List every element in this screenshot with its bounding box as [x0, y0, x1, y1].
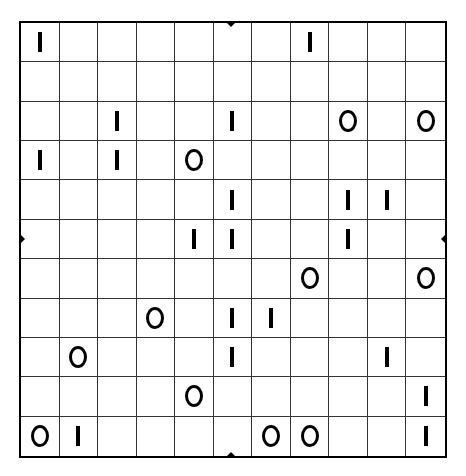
- grid-cell-r3-c3[interactable]: [137, 141, 176, 180]
- grid-cell-r6-c0[interactable]: [21, 259, 60, 298]
- grid-cell-r4-c4[interactable]: [175, 180, 214, 219]
- grid-cell-r2-c4[interactable]: [175, 102, 214, 141]
- grid-cell-r7-c2[interactable]: [98, 299, 137, 338]
- grid-cell-r3-c8[interactable]: [329, 141, 368, 180]
- grid-cell-r4-c5[interactable]: [214, 180, 253, 219]
- grid-cell-r7-c7[interactable]: [291, 299, 330, 338]
- grid-cell-r8-c6[interactable]: [252, 338, 291, 377]
- grid-cell-r1-c8[interactable]: [329, 62, 368, 101]
- grid-cell-r10-c4[interactable]: [175, 417, 214, 456]
- grid-cell-r9-c5[interactable]: [214, 377, 253, 416]
- grid-cell-r8-c0[interactable]: [21, 338, 60, 377]
- grid-cell-r5-c1[interactable]: [60, 220, 99, 259]
- grid-cell-r7-c0[interactable]: [21, 299, 60, 338]
- grid-cell-r0-c8[interactable]: [329, 23, 368, 62]
- grid-cell-r0-c10[interactable]: [406, 23, 445, 62]
- grid-cell-r8-c9[interactable]: [368, 338, 407, 377]
- grid-cell-r3-c4[interactable]: [175, 141, 214, 180]
- grid-cell-r9-c2[interactable]: [98, 377, 137, 416]
- grid-cell-r4-c0[interactable]: [21, 180, 60, 219]
- grid-cell-r4-c1[interactable]: [60, 180, 99, 219]
- grid-cell-r1-c9[interactable]: [368, 62, 407, 101]
- grid-cell-r5-c7[interactable]: [291, 220, 330, 259]
- grid-cell-r2-c1[interactable]: [60, 102, 99, 141]
- grid-cell-r6-c10[interactable]: [406, 259, 445, 298]
- grid-cell-r7-c8[interactable]: [329, 299, 368, 338]
- grid-cell-r5-c3[interactable]: [137, 220, 176, 259]
- grid-cell-r10-c9[interactable]: [368, 417, 407, 456]
- grid-cell-r2-c0[interactable]: [21, 102, 60, 141]
- grid-cell-r0-c1[interactable]: [60, 23, 99, 62]
- grid-cell-r8-c8[interactable]: [329, 338, 368, 377]
- grid-cell-r8-c7[interactable]: [291, 338, 330, 377]
- grid-cell-r8-c4[interactable]: [175, 338, 214, 377]
- grid-cell-r5-c0[interactable]: [21, 220, 60, 259]
- grid-cell-r2-c2[interactable]: [98, 102, 137, 141]
- grid-cell-r7-c1[interactable]: [60, 299, 99, 338]
- grid-cell-r1-c6[interactable]: [252, 62, 291, 101]
- grid-cell-r4-c6[interactable]: [252, 180, 291, 219]
- grid-cell-r7-c5[interactable]: [214, 299, 253, 338]
- grid-cell-r3-c1[interactable]: [60, 141, 99, 180]
- grid-cell-r10-c2[interactable]: [98, 417, 137, 456]
- grid-cell-r1-c2[interactable]: [98, 62, 137, 101]
- grid-cell-r5-c5[interactable]: [214, 220, 253, 259]
- grid-cell-r7-c10[interactable]: [406, 299, 445, 338]
- grid-cell-r9-c3[interactable]: [137, 377, 176, 416]
- grid-cell-r1-c0[interactable]: [21, 62, 60, 101]
- grid-cell-r6-c8[interactable]: [329, 259, 368, 298]
- grid-cell-r9-c6[interactable]: [252, 377, 291, 416]
- grid-cell-r3-c6[interactable]: [252, 141, 291, 180]
- grid-cell-r9-c9[interactable]: [368, 377, 407, 416]
- grid-cell-r9-c10[interactable]: [406, 377, 445, 416]
- grid-cell-r2-c6[interactable]: [252, 102, 291, 141]
- grid-cell-r8-c10[interactable]: [406, 338, 445, 377]
- grid-cell-r1-c7[interactable]: [291, 62, 330, 101]
- grid-cell-r0-c5[interactable]: [214, 23, 253, 62]
- grid-cell-r7-c3[interactable]: [137, 299, 176, 338]
- grid-cell-r3-c5[interactable]: [214, 141, 253, 180]
- grid-cell-r4-c10[interactable]: [406, 180, 445, 219]
- grid-cell-r5-c2[interactable]: [98, 220, 137, 259]
- grid-cell-r3-c0[interactable]: [21, 141, 60, 180]
- grid-cell-r4-c9[interactable]: [368, 180, 407, 219]
- grid-cell-r3-c10[interactable]: [406, 141, 445, 180]
- grid-cell-r5-c8[interactable]: [329, 220, 368, 259]
- grid-cell-r8-c3[interactable]: [137, 338, 176, 377]
- grid-cell-r7-c4[interactable]: [175, 299, 214, 338]
- grid-cell-r6-c2[interactable]: [98, 259, 137, 298]
- grid-cell-r5-c6[interactable]: [252, 220, 291, 259]
- grid-cell-r0-c4[interactable]: [175, 23, 214, 62]
- grid-cell-r4-c3[interactable]: [137, 180, 176, 219]
- grid-cell-r10-c1[interactable]: [60, 417, 99, 456]
- grid-cell-r10-c3[interactable]: [137, 417, 176, 456]
- grid-cell-r5-c4[interactable]: [175, 220, 214, 259]
- grid-cell-r1-c5[interactable]: [214, 62, 253, 101]
- grid-cell-r6-c3[interactable]: [137, 259, 176, 298]
- grid-cell-r0-c7[interactable]: [291, 23, 330, 62]
- grid-cell-r6-c1[interactable]: [60, 259, 99, 298]
- grid-cell-r2-c9[interactable]: [368, 102, 407, 141]
- grid-cell-r6-c4[interactable]: [175, 259, 214, 298]
- grid-cell-r3-c2[interactable]: [98, 141, 137, 180]
- grid-cell-r10-c5[interactable]: [214, 417, 253, 456]
- grid-cell-r6-c5[interactable]: [214, 259, 253, 298]
- grid-cell-r4-c7[interactable]: [291, 180, 330, 219]
- grid-cell-r3-c9[interactable]: [368, 141, 407, 180]
- grid-cell-r0-c3[interactable]: [137, 23, 176, 62]
- grid-cell-r6-c9[interactable]: [368, 259, 407, 298]
- grid-cell-r10-c6[interactable]: [252, 417, 291, 456]
- grid-cell-r9-c1[interactable]: [60, 377, 99, 416]
- grid-cell-r1-c1[interactable]: [60, 62, 99, 101]
- grid-cell-r2-c5[interactable]: [214, 102, 253, 141]
- grid-cell-r9-c0[interactable]: [21, 377, 60, 416]
- grid-cell-r7-c6[interactable]: [252, 299, 291, 338]
- grid-cell-r2-c7[interactable]: [291, 102, 330, 141]
- grid-cell-r4-c8[interactable]: [329, 180, 368, 219]
- grid-cell-r0-c2[interactable]: [98, 23, 137, 62]
- grid-cell-r10-c7[interactable]: [291, 417, 330, 456]
- grid-cell-r5-c10[interactable]: [406, 220, 445, 259]
- grid-cell-r9-c4[interactable]: [175, 377, 214, 416]
- grid-cell-r1-c4[interactable]: [175, 62, 214, 101]
- grid-cell-r10-c10[interactable]: [406, 417, 445, 456]
